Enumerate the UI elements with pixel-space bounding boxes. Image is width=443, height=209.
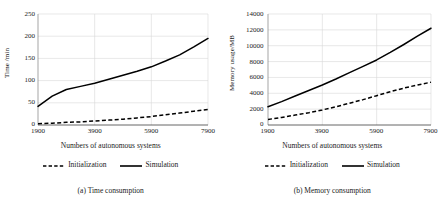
legend-item-simulation-a: Simulation [120, 160, 178, 169]
legend-a: Initialization Simulation [0, 160, 222, 169]
legend-swatch-initialization-a [43, 162, 65, 168]
legend-label-simulation-a: Simulation [145, 160, 178, 169]
plot-svg-b [222, 0, 443, 140]
legend-swatch-simulation-b [342, 162, 364, 168]
x-tick-a-0: 1900 [24, 128, 52, 135]
legend-item-initialization-a: Initialization [43, 160, 106, 169]
plot-svg-a [0, 0, 222, 140]
x-tick-b-3: 7900 [417, 128, 443, 135]
panel-caption-a: (a) Time consumption [0, 186, 222, 195]
legend-item-simulation-b: Simulation [342, 160, 400, 169]
x-tick-a-3: 7900 [194, 128, 222, 135]
legend-item-initialization-b: Initialization [265, 160, 328, 169]
plot-background-a [38, 14, 208, 125]
chart-area-a: Time /min 250 200 150 100 50 0 [0, 0, 222, 140]
legend-b: Initialization Simulation [222, 160, 443, 169]
plot-wrapper-b: 14000 12000 10000 8000 6000 4000 2000 0 [222, 0, 443, 140]
chart-area-b: Memory usage/MB 14000 12000 10000 8000 6… [222, 0, 443, 140]
legend-label-initialization-b: Initialization [290, 160, 328, 169]
x-tick-b-1: 3900 [308, 128, 336, 135]
chart-panel-b: Memory usage/MB 14000 12000 10000 8000 6… [222, 0, 443, 209]
chart-panel-a: Time /min 250 200 150 100 50 0 [0, 0, 222, 209]
figure-container: Time /min 250 200 150 100 50 0 [0, 0, 443, 209]
x-axis-label-b: Numbers of autonomous systems [222, 141, 443, 150]
plot-background-b [268, 14, 431, 125]
panel-caption-b: (b) Memory consumption [222, 186, 443, 195]
x-tick-a-1: 3900 [81, 128, 109, 135]
plot-wrapper-a: 250 200 150 100 50 0 [0, 0, 222, 140]
x-tick-b-0: 1900 [254, 128, 282, 135]
x-axis-label-a: Numbers of autonomous systems [0, 141, 222, 150]
legend-swatch-simulation-a [120, 162, 142, 168]
legend-label-simulation-b: Simulation [367, 160, 400, 169]
legend-swatch-initialization-b [265, 162, 287, 168]
x-tick-b-2: 5900 [362, 128, 390, 135]
legend-label-initialization-a: Initialization [68, 160, 106, 169]
x-tick-a-2: 5900 [137, 128, 165, 135]
